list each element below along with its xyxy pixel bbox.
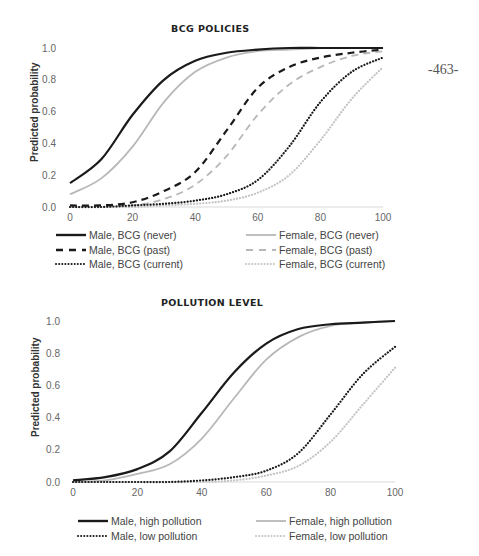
legend-item: Male, high pollution <box>77 515 201 527</box>
y-tick-label: 0.6 <box>46 380 60 391</box>
legend-label: Female, high pollution <box>289 515 392 527</box>
legend-label: Male, low pollution <box>111 530 197 542</box>
legend-swatch <box>255 516 287 526</box>
series-line-male-low-pollution <box>73 347 395 482</box>
legend-item: Male, low pollution <box>77 530 197 542</box>
series-line-female-high-pollution <box>73 321 395 482</box>
legend-swatch <box>255 531 287 541</box>
chart-pollution-level: POLLUTION LEVEL Predicted probability 0.… <box>0 0 479 556</box>
y-tick-label: 0.2 <box>46 444 60 455</box>
plot-area: 0.00.20.40.60.81.0020406080100 <box>0 0 479 510</box>
series-line-female-low-pollution <box>73 368 395 482</box>
legend-swatch <box>77 531 109 541</box>
y-tick-label: 0.4 <box>46 412 60 423</box>
legend-label: Female, low pollution <box>289 530 388 542</box>
legend-swatch <box>77 516 109 526</box>
x-tick-label: 60 <box>261 487 273 498</box>
legend-item: Female, low pollution <box>255 530 388 542</box>
y-tick-label: 1.0 <box>46 316 60 327</box>
series-line-male-high-pollution <box>73 321 395 480</box>
x-tick-label: 20 <box>132 487 144 498</box>
y-tick-label: 0.8 <box>46 348 60 359</box>
y-tick-label: 0.0 <box>46 477 60 488</box>
legend-label: Male, high pollution <box>111 515 201 527</box>
x-tick-label: 40 <box>196 487 208 498</box>
legend-item: Female, high pollution <box>255 515 392 527</box>
x-tick-label: 80 <box>325 487 337 498</box>
x-tick-label: 0 <box>70 487 76 498</box>
x-tick-label: 100 <box>387 487 404 498</box>
